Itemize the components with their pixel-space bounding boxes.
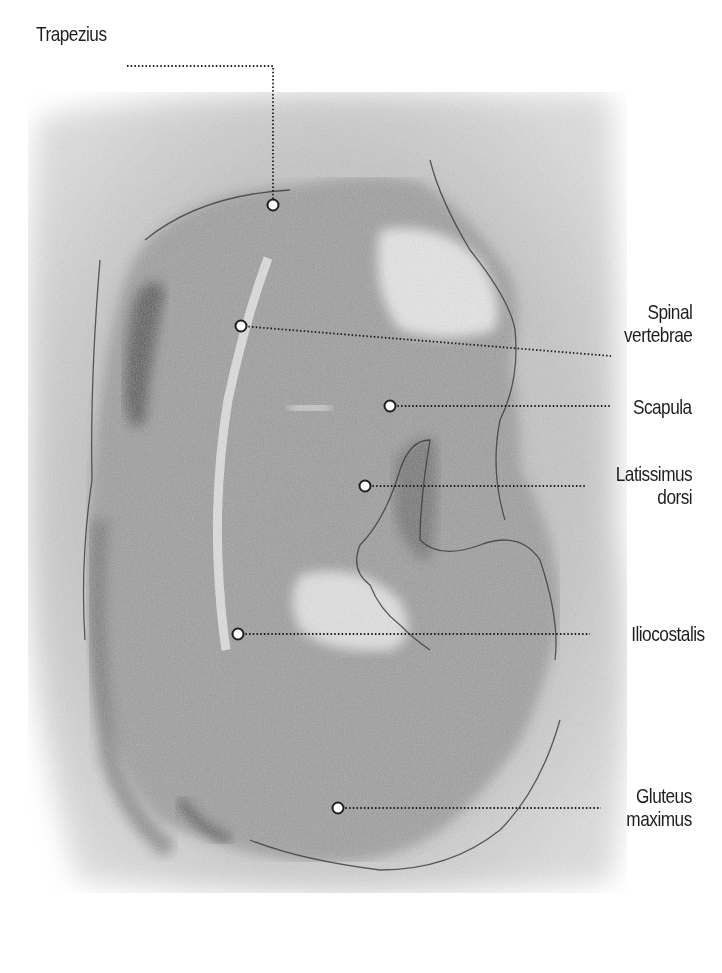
spinal-vertebrae-label-line: Spinal xyxy=(624,300,692,323)
gluteus-maximus-marker-icon xyxy=(333,803,344,814)
iliocostalis-label-line: Iliocostalis xyxy=(631,622,705,645)
gluteus-maximus-label-line: maximus xyxy=(627,807,692,830)
scapula-marker-icon xyxy=(385,401,396,412)
iliocostalis-marker-icon xyxy=(233,629,244,640)
scapula-label: Scapula xyxy=(633,395,692,418)
gluteus-maximus-label-line: Gluteus xyxy=(627,784,692,807)
latissimus-dorsi-label-line: Latissimus xyxy=(616,462,692,485)
trapezius-label: Trapezius xyxy=(36,22,107,45)
latissimus-dorsi-marker-icon xyxy=(360,481,371,492)
gluteus-maximus-label: Gluteusmaximus xyxy=(627,784,692,830)
trapezius-label-line: Trapezius xyxy=(36,22,107,45)
spinal-vertebrae-label-line: vertebrae xyxy=(624,323,692,346)
spinal-vertebrae-label: Spinalvertebrae xyxy=(624,300,692,346)
trapezius-marker-icon xyxy=(268,200,279,211)
back-sketch-illustration xyxy=(0,0,722,973)
scapula-label-line: Scapula xyxy=(633,395,692,418)
latissimus-dorsi-label: Latissimusdorsi xyxy=(616,462,692,508)
latissimus-dorsi-label-line: dorsi xyxy=(616,485,692,508)
iliocostalis-label: Iliocostalis xyxy=(631,622,705,645)
spinal-vertebrae-marker-icon xyxy=(236,321,247,332)
torso xyxy=(87,178,560,863)
anatomy-diagram: TrapeziusSpinalvertebraeScapulaLatissimu… xyxy=(0,0,722,973)
